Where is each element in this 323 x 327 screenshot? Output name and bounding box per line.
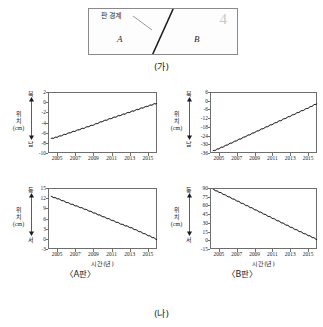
chart-b-plate-north-south: 위 치 (cm) 북 남 60-6-12-18-24-30-362005200 [162,84,323,180]
y-tick-mark [46,208,49,209]
y-tick-mark [46,198,49,199]
x-tick-mark [219,249,220,252]
plot-area-3 [210,92,317,153]
x-tick-label: 2015 [303,155,314,161]
y-tick-label: -36 [182,150,208,156]
y-tick-label: 6 [182,89,208,95]
y-tick-label: -30 [182,141,208,147]
x-tick-mark [57,249,58,252]
x-tick-label: 2007 [70,155,81,161]
y-tick-label: 2 [20,89,46,95]
y-axis-title-line1: 위 [174,206,180,213]
plot-area-2 [48,188,157,249]
x-tick-mark [112,153,113,156]
y-tick-label: -6 [20,130,46,136]
y-tick-mark [208,127,211,128]
y-tick-label: -3 [20,246,46,252]
data-line-1 [49,93,158,154]
y-tick-label: -8 [20,140,46,146]
y-tick-mark [46,229,49,230]
y-tick-mark [46,143,49,144]
plot-area-1 [48,92,157,153]
x-tick-label: 2015 [143,251,154,257]
x-tick-label: 2011 [267,251,278,257]
y-tick-mark [46,102,49,103]
x-tick-mark [112,249,113,252]
x-tick-mark [75,153,76,156]
charts-grid: 위 치 (cm) 북 남 20-2-4-6-8-102005200720092 [0,84,323,284]
x-tick-mark [308,249,309,252]
y-tick-label: 15 [20,185,46,191]
y-tick-label: 0 [182,237,208,243]
y-tick-label: -6 [182,106,208,112]
y-tick-mark [208,101,211,102]
y-tick-mark [208,232,211,233]
x-tick-label: 2005 [52,251,63,257]
x-tick-mark [290,153,291,156]
y-tick-mark [208,118,211,119]
y-tick-mark [46,249,49,250]
caption-na: (나) [0,307,323,320]
y-tick-mark [46,219,49,220]
y-axis-title-line2: 치 [174,117,180,124]
y-tick-label: 0 [20,236,46,242]
y-tick-mark [208,240,211,241]
y-tick-mark [208,188,211,189]
data-line-3 [211,93,318,154]
plate-boundary-diagram: A B 4 판 경계 (가) [0,0,323,82]
x-tick-mark [57,153,58,156]
y-tick-label: 90 [182,185,208,191]
y-tick-label: 15 [182,229,208,235]
x-tick-label: 2009 [88,155,99,161]
y-tick-label: -4 [20,120,46,126]
x-tick-label: 2011 [106,155,117,161]
x-tick-label: 2013 [285,251,296,257]
y-tick-mark [208,249,211,250]
y-tick-label: -15 [182,246,208,252]
x-tick-mark [308,153,309,156]
y-tick-mark [208,136,211,137]
x-tick-mark [290,249,291,252]
chart-a-plate-north-south: 위 치 (cm) 북 남 20-2-4-6-8-102005200720092 [0,84,161,180]
data-line-4 [211,189,318,250]
caption-ga: (가) [0,60,323,73]
caption-a-plate: 〈A판〉 [0,267,161,279]
y-tick-label: 12 [20,195,46,201]
plot-area-4 [210,188,317,249]
figure-root: A B 4 판 경계 (가) 위 치 (cm) 북 [0,0,323,327]
x-tick-mark [75,249,76,252]
y-tick-label: -24 [182,133,208,139]
x-tick-label: 2011 [267,155,278,161]
y-tick-label: 75 [182,194,208,200]
y-tick-mark [46,123,49,124]
y-tick-label: 30 [182,220,208,226]
x-tick-mark [130,249,131,252]
x-tick-mark [272,249,273,252]
y-tick-label: -10 [20,150,46,156]
x-tick-mark [219,153,220,156]
x-tick-label: 2007 [231,251,242,257]
y-tick-label: -12 [182,115,208,121]
y-axis-unit: (cm) [171,125,182,132]
y-tick-mark [208,144,211,145]
y-tick-mark [46,112,49,113]
x-tick-label: 2009 [88,251,99,257]
chart-b-plate-east-west: 위 치 (cm) 동 서 9075604530150-152005200720 [162,180,323,276]
y-tick-mark [208,214,211,215]
y-tick-label: 0 [182,98,208,104]
x-tick-mark [93,153,94,156]
y-tick-mark [46,153,49,154]
x-tick-mark [272,153,273,156]
x-tick-label: 2005 [52,155,63,161]
x-tick-label: 2011 [106,251,117,257]
x-tick-label: 2015 [143,155,154,161]
y-tick-mark [46,188,49,189]
chart-a-plate-east-west: 위 치 (cm) 동 서 15129630-32005200720092011 [0,180,161,276]
y-tick-mark [46,133,49,134]
y-tick-label: 0 [20,99,46,105]
x-tick-label: 2009 [249,251,260,257]
y-tick-mark [208,197,211,198]
y-tick-label: -2 [20,109,46,115]
y-tick-label: 3 [20,226,46,232]
x-tick-mark [255,249,256,252]
